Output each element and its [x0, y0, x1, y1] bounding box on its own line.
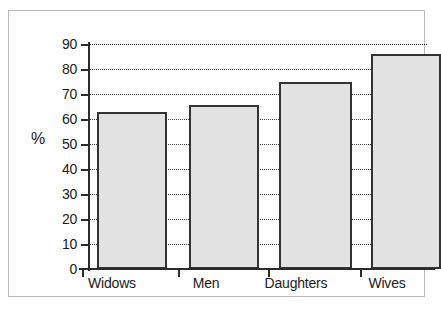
gridline-90 — [89, 44, 427, 45]
y-tick-label-80: 80 — [51, 62, 77, 76]
bar-men[interactable] — [189, 105, 259, 269]
y-tick-label-70: 70 — [51, 87, 77, 101]
y-tick-label-50: 50 — [51, 137, 77, 151]
bar-widows[interactable] — [97, 112, 167, 270]
x-category-label-widows: Widows — [57, 275, 167, 291]
y-axis-title: % — [31, 130, 45, 148]
x-category-label-wives: Wives — [339, 275, 435, 291]
bar-wives[interactable] — [371, 54, 441, 269]
y-tick-label-30: 30 — [51, 187, 77, 201]
x-axis-line — [79, 268, 435, 270]
y-tick-label-20: 20 — [51, 212, 77, 226]
bar-daughters[interactable] — [279, 82, 352, 270]
y-axis-line — [88, 42, 90, 271]
y-tick-label-40: 40 — [51, 162, 77, 176]
x-category-label-daughters: Daughters — [237, 275, 355, 291]
y-tick-label-90: 90 — [51, 37, 77, 51]
y-tick-label-60: 60 — [51, 112, 77, 126]
figure-frame: % 90 80 70 60 50 40 30 20 10 0 — [8, 10, 425, 297]
y-tick-label-10: 10 — [51, 237, 77, 251]
y-tick-label-0: 0 — [51, 262, 77, 276]
y-axis-tick-labels: 90 80 70 60 50 40 30 20 10 0 — [47, 11, 77, 310]
plot-area — [89, 44, 427, 269]
